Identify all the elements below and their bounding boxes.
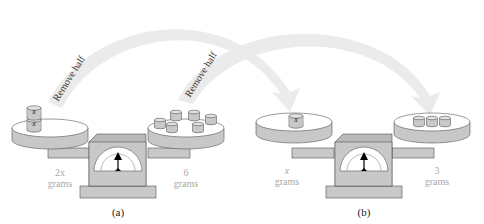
right-weight-unit-b: grams <box>425 176 450 187</box>
left-weight-unit-a: grams <box>48 178 73 189</box>
right-weight-unit-a: grams <box>174 178 199 189</box>
caption-a: (a) <box>112 206 125 219</box>
right-weight-value-b: 3 <box>435 165 440 176</box>
gram-weights-b <box>414 116 451 127</box>
right-weight-value-a: 6 <box>184 167 189 178</box>
left-weight-unit-b: grams <box>275 176 300 187</box>
scale-b: x x grams 3 grams (b) <box>256 113 470 219</box>
cylinder-x-stack-a: x x <box>27 106 41 132</box>
scale-a: x x 2x grams 6 grams (a) <box>12 106 224 219</box>
balance-scale-diagram: Remove half Remove half x x <box>0 0 484 224</box>
svg-text:x: x <box>31 119 36 128</box>
svg-text:x: x <box>31 107 36 116</box>
left-pan-a <box>12 119 88 149</box>
caption-b: (b) <box>358 206 371 219</box>
svg-text:x: x <box>293 115 298 124</box>
left-weight-value-a: 2x <box>55 167 65 178</box>
cylinder-x-b: x <box>289 114 303 128</box>
left-weight-value-b: x <box>284 165 290 176</box>
remove-half-arrow-2: Remove half <box>178 34 440 116</box>
